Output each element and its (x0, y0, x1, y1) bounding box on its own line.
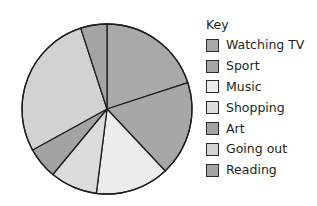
legend-label: Reading (226, 163, 277, 177)
legend-swatch (206, 101, 219, 114)
legend-item-art: Art (206, 118, 316, 139)
legend-swatch (206, 80, 219, 93)
legend-label: Watching TV (226, 38, 304, 52)
legend-item-reading: Reading (206, 160, 316, 181)
legend-label: Sport (226, 59, 260, 73)
legend-label: Going out (226, 142, 287, 156)
legend-label: Music (226, 80, 262, 94)
pie-slices (22, 24, 192, 194)
legend-swatch (206, 122, 219, 135)
legend-item-sport: Sport (206, 56, 316, 77)
legend-label: Shopping (226, 101, 285, 115)
pie-chart (0, 0, 210, 206)
legend: Key Watching TV Sport Music Shopping Art… (206, 17, 316, 181)
legend-item-music: Music (206, 77, 316, 98)
legend-swatch (206, 60, 219, 73)
legend-item-going-out: Going out (206, 139, 316, 160)
legend-swatch (206, 143, 219, 156)
legend-title: Key (206, 17, 316, 34)
legend-label: Art (226, 122, 245, 136)
legend-swatch (206, 39, 219, 52)
legend-item-shopping: Shopping (206, 97, 316, 118)
legend-item-watching-tv: Watching TV (206, 35, 316, 56)
legend-swatch (206, 164, 219, 177)
